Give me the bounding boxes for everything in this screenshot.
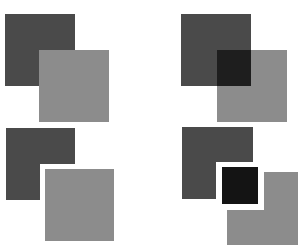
- overlap-region: [217, 50, 251, 86]
- light-l-shape-right: [264, 172, 298, 245]
- dark-l-shape-top: [182, 127, 253, 162]
- dark-l-shape-top: [6, 128, 75, 164]
- light-square: [45, 169, 114, 241]
- light-square: [39, 50, 109, 122]
- dark-l-shape-bottom: [182, 162, 216, 199]
- black-square: [222, 167, 258, 204]
- dark-l-shape-bottom: [6, 164, 40, 200]
- light-l-shape-bottom: [227, 210, 264, 245]
